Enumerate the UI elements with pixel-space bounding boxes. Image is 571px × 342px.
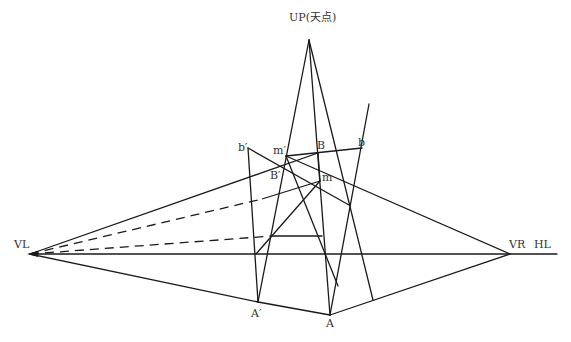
label-b-lower-prime: b′ bbox=[238, 142, 248, 153]
label-b: B bbox=[317, 140, 325, 151]
vl-vertex-marker bbox=[27, 251, 38, 257]
a-to-vr bbox=[330, 254, 510, 315]
label-m: m bbox=[322, 172, 332, 183]
vl-dashed-upper bbox=[30, 199, 262, 254]
label-b-lower: b bbox=[358, 137, 365, 148]
diagram-lines bbox=[0, 0, 571, 342]
label-b-prime: B′ bbox=[270, 170, 281, 181]
label-vr: VR bbox=[509, 239, 525, 250]
label-a: A bbox=[326, 318, 334, 329]
label-vl: VL bbox=[14, 239, 29, 250]
vl-to-a-prime bbox=[30, 254, 258, 302]
b-prime-vertical bbox=[248, 148, 258, 302]
label-up: UP(天点) bbox=[289, 12, 336, 23]
label-a-prime: A′ bbox=[251, 308, 261, 319]
a-prime-to-a bbox=[258, 302, 330, 315]
label-hl: HL bbox=[534, 239, 551, 250]
perspective-diagram: UP(天点) VL VR HL A′ A B B′ m m′ b b′ bbox=[0, 0, 571, 342]
label-m-prime: m′ bbox=[273, 145, 286, 156]
